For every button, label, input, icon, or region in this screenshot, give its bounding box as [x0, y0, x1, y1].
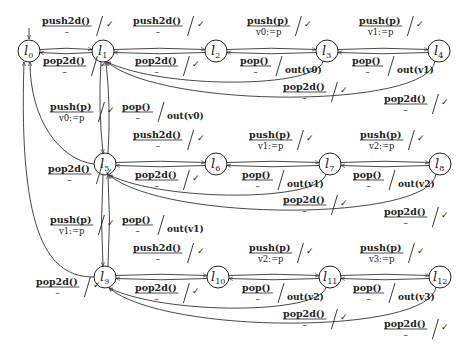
- slash-divider: [408, 243, 414, 263]
- state-l7: l7: [319, 153, 341, 175]
- check-icon: ✓: [197, 19, 205, 29]
- action-text: push(p): [50, 101, 91, 112]
- label-e_l4_l3: pop()–out(v1): [352, 55, 434, 77]
- slash-divider: [97, 16, 103, 36]
- label-e_l3_l2: pop()–out(v0): [240, 55, 322, 77]
- guard-text: –: [156, 27, 160, 37]
- guard-text: –: [404, 330, 408, 340]
- guard-text: –: [255, 294, 259, 304]
- transition-l3-l2: [227, 53, 316, 54]
- action-text: push(p): [360, 129, 401, 140]
- check-icon: ✓: [192, 173, 200, 183]
- output-text: out(v2): [398, 179, 435, 189]
- guard-text: –: [156, 141, 160, 151]
- check-icon: ✓: [340, 85, 348, 95]
- label-e_l6_l5: pop2d()–✓: [135, 169, 200, 191]
- guard-text: v2:=p: [368, 141, 395, 151]
- guard-text: v3:=p: [368, 254, 395, 264]
- transition-l11-l12: [341, 274, 429, 275]
- action-text: pop2d(): [283, 308, 325, 319]
- check-icon: ✓: [417, 246, 425, 256]
- guard-text: –: [68, 175, 72, 185]
- check-icon: ✓: [192, 59, 200, 69]
- check-icon: ✓: [441, 97, 449, 107]
- label-e_l9_l5: pop()–out(v1): [122, 214, 204, 236]
- transition-l8-l7: [341, 166, 429, 167]
- transition-l3-l4: [338, 48, 428, 49]
- state-l10: l10: [207, 266, 229, 288]
- label-e_l2_l3: push(p)v0:=p✓: [247, 15, 312, 37]
- transition-l1-l0: [40, 53, 92, 54]
- action-text: push(p): [359, 15, 400, 26]
- guard-text: –: [135, 113, 139, 123]
- action-text: pop2d(): [283, 81, 325, 92]
- label-e_l7_l6: pop()–out(v1): [242, 169, 324, 191]
- action-text: pop2d(): [384, 318, 426, 329]
- check-icon: ✓: [306, 133, 314, 143]
- guard-text: v0:=p: [58, 113, 85, 123]
- slash-divider: [188, 130, 194, 150]
- slash-divider: [407, 16, 413, 36]
- label-e_l6_l7: push(p)v1:=p✓: [249, 129, 314, 151]
- action-text: pop(): [242, 282, 271, 293]
- transition-l7-l8: [341, 161, 429, 162]
- slash-divider: [331, 195, 337, 215]
- transition-l2-l3: [227, 48, 316, 49]
- transition-labels: push2d()–✓pop2d()–✓push2d()–✓pop2d()–✓pu…: [36, 15, 449, 340]
- label-e_l8_l7: pop()–out(v2): [353, 169, 435, 191]
- label-e_l5_l9: push(p)v1:=p✓: [50, 214, 115, 236]
- slash-divider: [188, 243, 194, 263]
- transition-l9-l10: [116, 274, 207, 275]
- label-e_l3_l1: pop2d()–✓: [283, 81, 348, 103]
- slash-divider: [84, 277, 90, 297]
- action-text: push(p): [249, 129, 290, 140]
- action-text: pop(): [353, 282, 382, 293]
- slash-divider: [91, 56, 97, 76]
- guard-text: –: [56, 288, 60, 298]
- label-e_l3_l4: push(p)v1:=p✓: [359, 15, 424, 37]
- label-e_l5_l6: push2d()–✓: [133, 129, 205, 151]
- state-l3: l3: [316, 40, 338, 62]
- check-icon: ✓: [197, 133, 205, 143]
- label-e_l5_l1: pop()–out(v0): [122, 101, 204, 123]
- label-e_l4_l1: pop2d()–✓: [384, 93, 449, 115]
- slash-divider: [297, 243, 303, 263]
- label-e_l7_l8: push(p)v2:=p✓: [360, 129, 425, 151]
- check-icon: ✓: [417, 133, 425, 143]
- guard-text: –: [404, 218, 408, 228]
- guard-text: –: [303, 93, 307, 103]
- guard-text: v1:=p: [367, 27, 394, 37]
- label-e_l11_l9: pop2d()–✓: [283, 308, 348, 330]
- state-l8: l8: [429, 153, 451, 175]
- guard-text: –: [155, 181, 159, 191]
- action-text: pop(): [122, 214, 151, 225]
- slash-divider: [183, 170, 189, 190]
- state-machine-diagram: l0l1l2l3l4l5l6l7l8l9l10l11l12 push2d()–✓…: [0, 0, 475, 361]
- guard-text: –: [155, 294, 159, 304]
- label-e_l0_l1: push2d()–✓: [42, 15, 114, 37]
- slash-divider: [389, 170, 395, 190]
- slash-divider: [432, 207, 438, 227]
- guard-text: –: [63, 67, 67, 77]
- action-text: push2d(): [133, 242, 181, 253]
- action-text: pop(): [353, 169, 382, 180]
- slash-divider: [331, 82, 337, 102]
- label-e_l8_l5: pop2d()–✓: [384, 206, 449, 228]
- action-text: pop2d(): [283, 194, 325, 205]
- guard-text: –: [253, 67, 257, 77]
- transition-l1-l2: [114, 48, 205, 49]
- label-e_l1_l2: push2d()–✓: [133, 15, 205, 37]
- slash-divider: [188, 16, 194, 36]
- transition-l7-l6: [227, 166, 319, 167]
- action-text: push2d(): [133, 129, 181, 140]
- transition-l10-l9: [116, 279, 207, 280]
- action-text: pop2d(): [135, 55, 177, 66]
- slash-divider: [389, 283, 395, 303]
- transition-l10-l11: [229, 274, 319, 275]
- label-e_l1_l5: push(p)v0:=p✓: [50, 101, 115, 123]
- slash-divider: [183, 56, 189, 76]
- slash-divider: [278, 170, 284, 190]
- transition-l6-l5: [116, 166, 205, 167]
- action-text: pop(): [352, 55, 381, 66]
- check-icon: ✓: [93, 280, 101, 290]
